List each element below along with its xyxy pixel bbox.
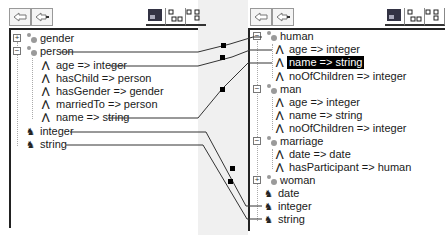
mapping-handle [228, 179, 233, 184]
mapping-line-name-name [108, 63, 272, 118]
mapping-handle [221, 43, 226, 48]
mapping-lines [0, 0, 445, 235]
mapping-handle [220, 55, 225, 60]
mapping-handle [220, 87, 225, 92]
mapping-line-person-human [60, 37, 262, 52]
mapping-handle [230, 166, 235, 171]
